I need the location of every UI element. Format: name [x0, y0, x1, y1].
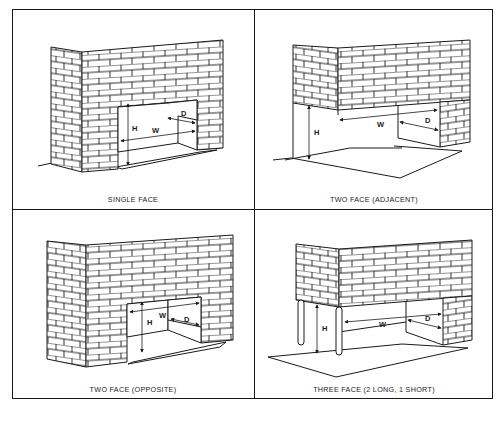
dim-width-label: W: [159, 311, 167, 320]
firebox: [118, 103, 178, 152]
dim-depth-label: D: [181, 109, 187, 118]
dim-height-label: H: [314, 128, 319, 137]
caption-two-face-adjacent: TWO FACE (ADJACENT): [254, 195, 494, 204]
dim-height-label: H: [132, 124, 137, 133]
caption-single-face: SINGLE FACE: [13, 195, 253, 204]
dim-width-label: W: [379, 320, 387, 329]
panel-three-face: H W D: [268, 240, 472, 377]
column-front: [336, 307, 342, 355]
panel-single-face: H W D: [38, 40, 223, 172]
panel-two-face-adjacent: H W D: [273, 40, 470, 178]
dim-height-label: H: [322, 324, 327, 333]
fireplace-types-diagram: H W D H W D: [0, 0, 500, 423]
dim-width-label: W: [377, 120, 385, 129]
caption-three-face: THREE FACE (2 LONG, 1 SHORT): [254, 385, 494, 394]
panel-two-face-opposite: H W D: [47, 235, 233, 367]
dim-width-label: W: [152, 126, 160, 135]
caption-two-face-opposite: TWO FACE (OPPOSITE): [13, 385, 253, 394]
dim-depth-label: D: [425, 116, 431, 125]
dim-height-label: H: [147, 318, 152, 327]
side-wall: [51, 47, 82, 172]
column-left: [298, 300, 304, 345]
dim-depth-label: D: [425, 314, 431, 323]
dim-depth-label: D: [184, 315, 190, 324]
